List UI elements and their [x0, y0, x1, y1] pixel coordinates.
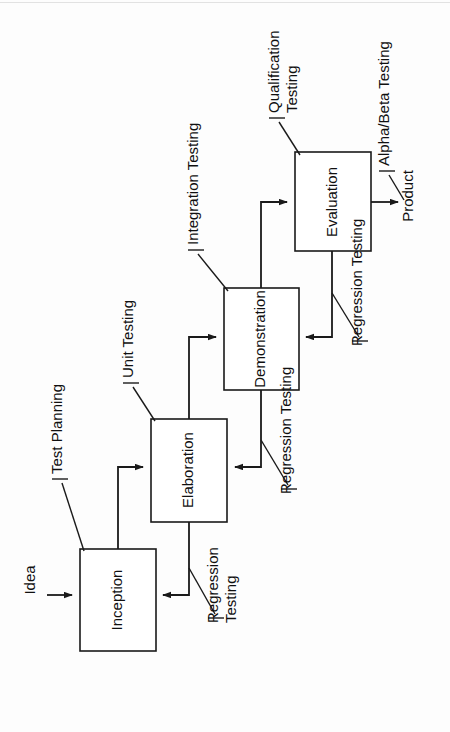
flow-demonstration-back-to-elaboration: [235, 390, 261, 467]
annotation-alpha-beta-testing-line1: Alpha/Beta Testing: [375, 41, 392, 166]
annotation-regression-testing-1-line2: Testing: [222, 575, 239, 623]
elaboration-box-label: Elaboration: [179, 432, 196, 508]
evaluation-box-label: Evaluation: [323, 167, 340, 237]
phase-box-elaboration[interactable]: Elaboration: [151, 419, 227, 522]
flow-elaboration-back-to-inception: [163, 522, 189, 595]
diagram-canvas: Inception Elaboration Demonstration Eval…: [0, 0, 450, 732]
lifecycle-diagram: Inception Elaboration Demonstration Eval…: [0, 0, 450, 732]
inception-box-label: Inception: [108, 570, 125, 631]
annotation-regression-testing-1-line1: Regression: [204, 547, 221, 623]
demonstration-box-label: Demonstration: [251, 290, 268, 388]
annotation-regression-testing-2-line1: Regression Testing: [277, 367, 294, 494]
flow-inception-to-elaboration: [118, 467, 143, 549]
phase-box-inception[interactable]: Inception: [80, 549, 156, 651]
annotation-qualification-testing-line1: Qualification: [265, 30, 282, 113]
flow-elaboration-to-demonstration: [189, 337, 216, 419]
annotation-regression-testing-3-line1: Regression Testing: [348, 219, 365, 346]
leader-test-planning: [62, 483, 84, 551]
annotation-test-planning-line1: Test Planning: [48, 384, 65, 474]
annotation-qualification-testing-line2: Testing: [283, 65, 300, 113]
annotation-unit-testing-line1: Unit Testing: [119, 300, 136, 378]
annotation-labels: Test Planning Unit Testing Integration T…: [48, 30, 392, 623]
flow-evaluation-back-to-demonstration: [306, 251, 332, 337]
leader-qualification-testing: [279, 122, 300, 155]
leader-unit-testing: [133, 387, 155, 421]
flow-demonstration-to-evaluation: [261, 202, 287, 288]
leader-integration-testing: [198, 254, 228, 291]
annotation-integration-testing-line1: Integration Testing: [184, 123, 201, 245]
idea-label: Idea: [21, 565, 38, 595]
flow-arrows: [47, 202, 398, 595]
